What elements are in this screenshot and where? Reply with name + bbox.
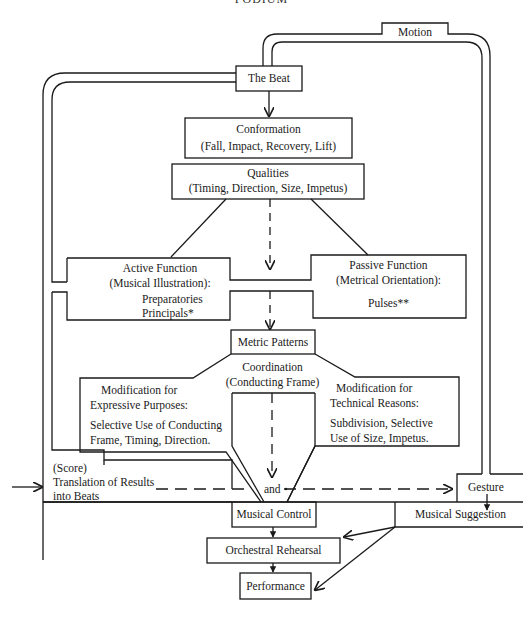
technical-subtitle: Technical Reasons: — [330, 396, 419, 410]
and-label: and — [263, 482, 282, 496]
technical-title: Modification for — [336, 381, 412, 395]
expressive-subtitle: Expressive Purposes: — [90, 398, 188, 412]
technical-detail-1: Subdivision, Selective — [330, 416, 433, 430]
active-title: Active Function — [100, 261, 220, 275]
coordination-subtitle: (Conducting Frame) — [215, 375, 330, 389]
qualities-detail: (Timing, Direction, Size, Impetus) — [172, 181, 364, 195]
passive-subtitle: (Metrical Orientation): — [311, 273, 466, 287]
gesture-label: Gesture — [468, 480, 504, 494]
score-detail-1: Translation of Results — [53, 475, 154, 489]
expressive-title: Modification for — [101, 383, 177, 397]
active-preparatories: Preparatories — [142, 292, 203, 306]
metric-patterns-label: Metric Patterns — [231, 335, 315, 349]
performance-label: Performance — [240, 579, 311, 593]
score-title: (Score) — [53, 461, 87, 475]
beat-label: The Beat — [236, 71, 302, 85]
expressive-detail-1: Selective Use of Conducting — [90, 418, 222, 432]
orchestral-rehearsal-label: Orchestral Rehearsal — [207, 543, 340, 557]
flow-lines — [0, 0, 523, 627]
passive-pulses: Pulses** — [311, 296, 466, 310]
coordination-title: Coordination — [215, 360, 330, 374]
motion-label: Motion — [382, 25, 448, 39]
conformation-detail: (Fall, Impact, Recovery, Lift) — [185, 139, 352, 153]
active-subtitle: (Musical Illustration): — [90, 276, 230, 290]
musical-control-label: Musical Control — [232, 507, 316, 521]
musical-suggestion-label: Musical Suggestion — [415, 507, 506, 521]
passive-title: Passive Function — [311, 258, 466, 272]
score-detail-2: into Beats — [53, 489, 99, 503]
technical-detail-2: Use of Size, Impetus. — [330, 431, 429, 445]
expressive-detail-2: Frame, Timing, Direction. — [90, 433, 210, 447]
conformation-title: Conformation — [185, 122, 352, 136]
qualities-title: Qualities — [172, 166, 364, 180]
active-principals: Principals* — [142, 306, 194, 320]
